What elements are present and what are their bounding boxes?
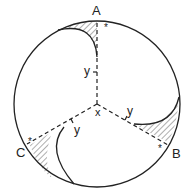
label-c: C bbox=[16, 145, 25, 160]
hatched-region-c bbox=[30, 132, 52, 178]
star-b: * bbox=[158, 143, 162, 154]
star-a: * bbox=[104, 22, 108, 33]
label-b: B bbox=[172, 146, 181, 161]
dashed-line-c bbox=[27, 104, 97, 144]
diagram-canvas: A B C x y y y * * * bbox=[0, 0, 192, 196]
arc-c bbox=[56, 127, 74, 184]
label-y-a: y bbox=[84, 64, 90, 78]
tick-c bbox=[71, 119, 73, 123]
label-center-x: x bbox=[95, 106, 101, 118]
label-y-c: y bbox=[74, 123, 80, 137]
label-a: A bbox=[92, 3, 101, 18]
hatched-region-b bbox=[135, 100, 178, 142]
label-y-b: y bbox=[127, 104, 133, 118]
star-c: * bbox=[28, 136, 32, 147]
